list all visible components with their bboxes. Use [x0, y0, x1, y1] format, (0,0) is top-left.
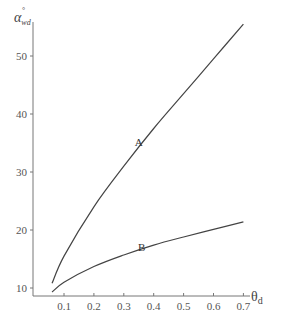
- axes: [33, 22, 250, 296]
- curve-a: [52, 24, 243, 283]
- line-chart: 1020304050 0.10.20.30.40.50.60.7 AB αwd …: [0, 0, 284, 320]
- y-tick-label: 30: [16, 166, 28, 178]
- x-tick-label: 0.5: [177, 300, 191, 312]
- x-tick-label: 0.7: [237, 300, 251, 312]
- y-tick-label: 20: [16, 224, 28, 236]
- curve-label-a: A: [135, 136, 143, 148]
- curve-label-b: B: [138, 241, 145, 253]
- x-tick-label: 0.3: [117, 300, 131, 312]
- y-ticks: 1020304050: [16, 50, 33, 294]
- x-axis-label: θd: [251, 289, 263, 306]
- x-tick-label: 0.4: [147, 300, 161, 312]
- x-tick-label: 0.6: [207, 300, 221, 312]
- y-tick-label: 10: [16, 282, 28, 294]
- curves: [52, 24, 243, 292]
- curve-labels: AB: [135, 136, 146, 254]
- y-axis-label-degree: °: [22, 6, 25, 15]
- y-tick-label: 40: [16, 108, 28, 120]
- curve-b: [52, 222, 243, 292]
- y-tick-label: 50: [16, 50, 28, 62]
- x-tick-label: 0.1: [57, 300, 71, 312]
- x-tick-label: 0.2: [87, 300, 101, 312]
- y-axis-label-sub: wd: [21, 18, 31, 27]
- x-axis-label-sub: d: [258, 295, 263, 306]
